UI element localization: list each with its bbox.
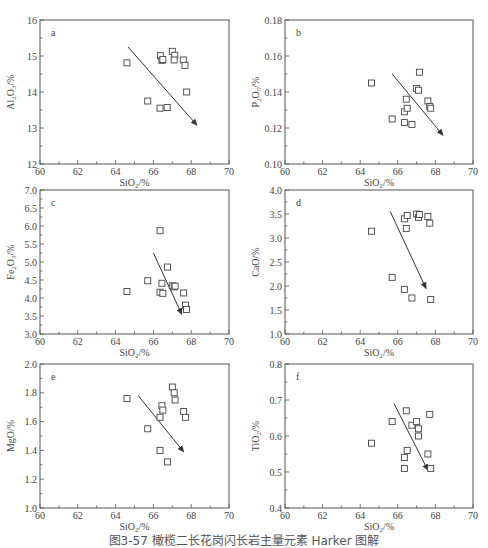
y-tick-label: 2.0 [25, 359, 38, 370]
data-point-square [401, 286, 407, 292]
data-point-square [157, 447, 163, 453]
data-point-square [124, 289, 130, 295]
y-axis-title: TiO₂/% [250, 421, 261, 451]
y-tick-label: 4.5 [25, 275, 38, 286]
y-tick-label: 7.0 [25, 185, 38, 196]
data-point-square [160, 407, 166, 413]
data-point-square [157, 105, 163, 111]
x-tick-label: 62 [73, 510, 83, 521]
data-point-square [124, 396, 130, 402]
y-tick-label: 5.5 [25, 239, 38, 250]
y-axis-title: CaO/% [250, 247, 261, 276]
y-tick-label: 1.4 [25, 445, 38, 456]
data-point-square [401, 465, 407, 471]
x-tick-label: 66 [393, 336, 403, 347]
y-tick-label: 0.12 [265, 123, 283, 134]
figure-caption: 图3-57 橄榄二长花岗闪长岩主量元素 Harker 图解 [0, 531, 488, 548]
y-tick-label: 6.5 [25, 203, 38, 214]
y-axis-title: Al₂O₃/% [5, 74, 16, 109]
data-point-square [404, 212, 410, 218]
harker-diagram-figure: 6062646668701213141516SiO₂/%Al₂O₃/%a6062… [0, 0, 488, 547]
y-tick-label: 2.0 [270, 281, 283, 292]
data-point-square [428, 105, 434, 111]
x-tick-label: 68 [430, 166, 440, 177]
data-point-square [368, 440, 374, 446]
data-point-square [389, 274, 395, 280]
y-tick-label: 0.8 [270, 359, 283, 370]
data-point-square [160, 57, 166, 63]
x-tick-label: 62 [318, 336, 328, 347]
data-point-square [427, 220, 433, 226]
panel-f: 6062646668700.40.50.60.70.8SiO₂/%TiO₂/%f [250, 359, 478, 533]
panel-c: 6062646668703.03.54.04.55.05.56.06.57.0S… [5, 185, 234, 359]
x-axis-title: SiO₂/% [119, 347, 149, 358]
data-point-square [164, 104, 170, 110]
data-point-square [409, 121, 415, 127]
data-point-square [428, 296, 434, 302]
data-point-square [416, 69, 422, 75]
data-point-square [389, 116, 395, 122]
y-tick-label: 0.4 [270, 503, 283, 514]
x-tick-label: 62 [73, 336, 83, 347]
x-axis-title: SiO₂/% [119, 177, 149, 188]
data-point-square [171, 390, 177, 396]
y-tick-label: 3.0 [25, 329, 38, 340]
y-axis-title: Fe₂O₃/% [5, 244, 16, 279]
data-point-square [404, 447, 410, 453]
data-point-square [160, 290, 166, 296]
trend-arrow [390, 212, 426, 289]
x-tick-label: 64 [111, 510, 121, 521]
y-tick-label: 0.18 [265, 15, 283, 26]
x-axis-title: SiO₂/% [364, 177, 394, 188]
y-tick-label: 14 [27, 87, 37, 98]
data-point-square [403, 225, 409, 231]
x-tick-label: 64 [111, 336, 121, 347]
y-tick-label: 1.0 [25, 503, 38, 514]
x-tick-label: 66 [393, 510, 403, 521]
data-point-square [183, 307, 189, 313]
data-point-square [165, 264, 171, 270]
y-tick-label: 6.0 [25, 221, 38, 232]
y-tick-label: 16 [27, 15, 37, 26]
x-tick-label: 68 [430, 510, 440, 521]
x-tick-label: 64 [355, 166, 365, 177]
x-tick-label: 64 [111, 166, 121, 177]
data-point-square [165, 459, 171, 465]
x-axis-title: SiO₂/% [364, 347, 394, 358]
plot-frame [40, 190, 229, 334]
data-point-square [415, 87, 421, 93]
data-point-square [181, 409, 187, 415]
x-tick-label: 68 [430, 336, 440, 347]
y-tick-label: 3.5 [25, 311, 38, 322]
y-axis-title: MgO/% [5, 420, 16, 452]
data-point-square [172, 397, 178, 403]
x-tick-label: 66 [148, 166, 158, 177]
plot-frame [285, 364, 473, 508]
y-tick-label: 0.14 [265, 87, 283, 98]
y-tick-label: 0.5 [270, 467, 283, 478]
y-axis-title: P₂O₅/% [250, 77, 261, 108]
x-tick-label: 70 [468, 166, 478, 177]
y-tick-label: 1.8 [25, 387, 38, 398]
x-tick-label: 70 [224, 336, 234, 347]
data-point-square [425, 213, 431, 219]
data-point-square [124, 60, 130, 66]
plot-frame [40, 20, 229, 164]
y-tick-label: 0.7 [270, 395, 283, 406]
data-point-square [157, 414, 163, 420]
data-point-square [181, 290, 187, 296]
data-point-square [145, 278, 151, 284]
x-tick-label: 64 [355, 510, 365, 521]
data-point-square [427, 411, 433, 417]
panel-letter: f [296, 371, 300, 382]
data-point-square [145, 98, 151, 104]
x-tick-label: 68 [186, 336, 196, 347]
panel-letter: a [51, 27, 56, 38]
trend-arrow [394, 404, 428, 471]
y-tick-label: 4.0 [25, 293, 38, 304]
panel-d: 6062646668701.01.52.02.53.03.54.0SiO₂/%C… [250, 185, 478, 359]
x-tick-label: 70 [468, 336, 478, 347]
data-point-square [425, 451, 431, 457]
data-point-square [416, 211, 422, 217]
